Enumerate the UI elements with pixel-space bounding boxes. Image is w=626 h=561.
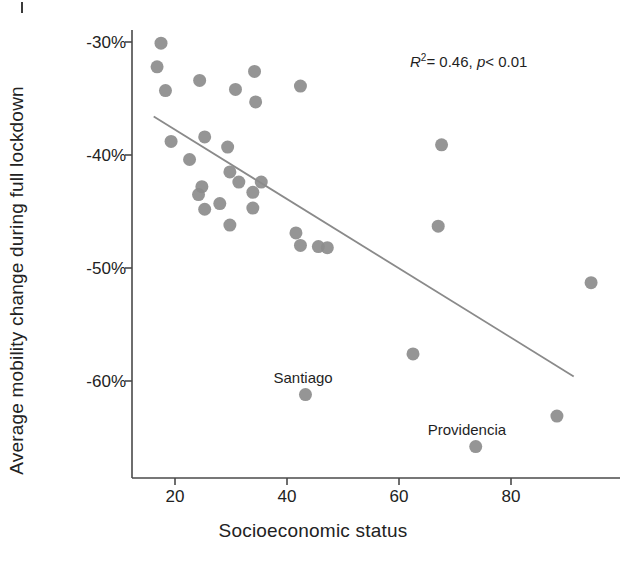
data-point[interactable] (151, 60, 164, 73)
point-label-santiago: Santiago (273, 369, 332, 386)
regression-trendline (154, 117, 574, 377)
data-point[interactable] (289, 226, 302, 239)
data-point[interactable] (221, 141, 234, 154)
chart-figure: -30% -40% -50% -60% 20 40 60 80 Socioeco… (0, 0, 626, 561)
data-point[interactable] (432, 220, 445, 233)
data-point[interactable] (213, 197, 226, 210)
data-point[interactable] (198, 203, 211, 216)
data-point[interactable] (183, 153, 196, 166)
data-point[interactable] (294, 239, 307, 252)
point-label-providencia: Providencia (428, 421, 506, 438)
data-point[interactable] (435, 138, 448, 151)
data-points-group (151, 37, 598, 453)
x-axis-title: Socioeconomic status (0, 520, 626, 542)
ytick-label-30: -30% (54, 33, 126, 53)
y-axis-title: Average mobility change during full lock… (0, 0, 34, 561)
xtick-label-40: 40 (262, 487, 312, 507)
data-point[interactable] (192, 188, 205, 201)
data-point[interactable] (550, 410, 563, 423)
xtick-label-80: 80 (486, 487, 536, 507)
ytick-label-40: -40% (54, 146, 126, 166)
data-point[interactable] (246, 202, 259, 215)
data-point[interactable] (223, 219, 236, 232)
data-point[interactable] (255, 176, 268, 189)
data-point[interactable] (246, 186, 259, 199)
data-point[interactable] (155, 37, 168, 50)
scatter-plot-canvas (0, 0, 626, 561)
data-point[interactable] (223, 165, 236, 178)
data-point[interactable] (248, 65, 261, 78)
p-value: < 0.01 (485, 53, 527, 70)
r-squared-value: = 0.46, (426, 53, 472, 70)
data-point[interactable] (294, 80, 307, 93)
data-point[interactable] (469, 440, 482, 453)
xtick-label-60: 60 (374, 487, 424, 507)
data-point[interactable] (299, 388, 312, 401)
statistics-annotation: R2= 0.46, p< 0.01 (410, 52, 527, 70)
data-point[interactable] (407, 347, 420, 360)
trendline-group (154, 117, 574, 377)
ytick-label-50: -50% (54, 259, 126, 279)
data-point[interactable] (249, 95, 262, 108)
data-point[interactable] (232, 176, 245, 189)
xtick-label-20: 20 (150, 487, 200, 507)
data-point[interactable] (321, 241, 334, 254)
r-squared-symbol: R (410, 53, 421, 70)
ytick-label-60: -60% (54, 372, 126, 392)
data-point[interactable] (165, 135, 178, 148)
data-point[interactable] (585, 276, 598, 289)
data-point[interactable] (229, 83, 242, 96)
p-symbol: p (477, 53, 485, 70)
data-point[interactable] (198, 130, 211, 143)
data-point[interactable] (159, 84, 172, 97)
data-point[interactable] (193, 74, 206, 87)
tick-marks-group (125, 42, 511, 485)
